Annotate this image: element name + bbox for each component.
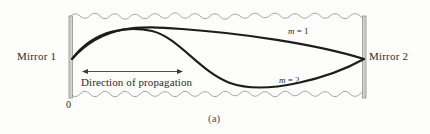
mode-label-m2-symbol: m: [279, 75, 286, 85]
cavity-wall-bottom: [70, 91, 365, 96]
mirror-2-label: Mirror 2: [369, 51, 408, 62]
mirror-2: [363, 16, 366, 98]
standing-wave-cavity-figure: Mirror 1 Mirror 2 Direction of propagati…: [0, 0, 430, 134]
cavity-wall-top: [70, 13, 365, 19]
mode-label-m2-relation: =: [288, 75, 293, 85]
mode-label-m1-relation: =: [297, 26, 302, 36]
propagation-arrow: [82, 69, 183, 74]
mode-label-m1-symbol: m: [288, 26, 295, 36]
mirror-1: [69, 16, 72, 98]
mode-label-m2: m = 2: [279, 76, 300, 85]
mode-label-m1: m = 1: [288, 27, 309, 36]
mode-label-m2-value: 2: [295, 75, 300, 85]
mirror-1-label: Mirror 1: [17, 51, 56, 62]
figure-caption: (a): [208, 113, 220, 124]
mode-curve-m1: [72, 27, 364, 59]
direction-of-propagation-label: Direction of propagation: [81, 77, 192, 88]
origin-label: 0: [66, 100, 71, 110]
mode-label-m1-value: 1: [304, 26, 309, 36]
